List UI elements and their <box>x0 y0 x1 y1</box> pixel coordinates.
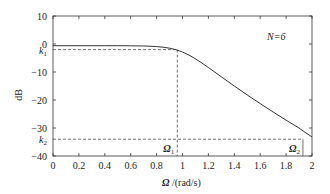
x-tick-label: 0 <box>51 160 56 171</box>
x-tick-label: 1.8 <box>280 160 293 171</box>
k2-label: k2 <box>39 134 47 147</box>
y-axis-label: dB <box>13 89 24 101</box>
y-tick-label: −30 <box>31 123 47 134</box>
y-tick-label: −20 <box>31 95 47 106</box>
order-annotation: N=6 <box>266 31 285 42</box>
omega2-label: Ω2 <box>289 143 300 156</box>
x-tick-label: 0.8 <box>150 160 163 171</box>
chart: 00.20.40.60.811.21.41.61.82100−10−20−30−… <box>0 0 330 194</box>
y-tick-label: 10 <box>37 11 47 22</box>
reference-lines: k1k2Ω1Ω2 <box>39 45 303 156</box>
x-tick-label: 1.4 <box>228 160 241 171</box>
x-tick-label: 2 <box>310 160 315 171</box>
x-tick-label: 1.2 <box>202 160 215 171</box>
x-axis-label: Ω /(rad/s) <box>162 177 201 189</box>
y-tick-label: −10 <box>31 67 47 78</box>
x-tick-label: 0.2 <box>73 160 86 171</box>
response-curve <box>53 46 312 137</box>
omega1-label: Ω1 <box>163 143 174 156</box>
x-axis-unit: /(rad/s) <box>169 177 200 189</box>
x-tick-label: 1 <box>180 160 185 171</box>
x-tick-label: 0.6 <box>124 160 137 171</box>
x-tick-label: 0.4 <box>99 160 112 171</box>
y-tick-label: −40 <box>31 151 47 162</box>
x-tick-label: 1.6 <box>254 160 267 171</box>
